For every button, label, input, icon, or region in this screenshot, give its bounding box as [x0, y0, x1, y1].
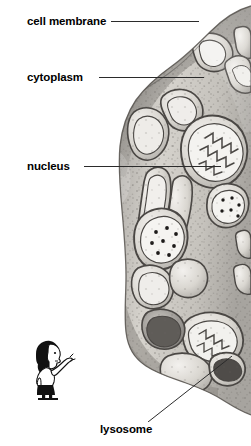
pointing-person-cartoon — [26, 338, 78, 400]
cell-diagram-page: cell membrane cytoplasm nucleus lysosome — [0, 0, 251, 446]
label-cell-membrane: cell membrane — [27, 15, 106, 27]
label-nucleus: nucleus — [27, 160, 70, 172]
cell-body — [110, 0, 251, 446]
leader-line-nucleus — [84, 166, 221, 167]
label-cytoplasm: cytoplasm — [27, 71, 83, 83]
leader-line-cell-membrane — [111, 21, 199, 22]
leader-line-cytoplasm — [99, 77, 204, 78]
label-lysosome: lysosome — [100, 423, 152, 435]
